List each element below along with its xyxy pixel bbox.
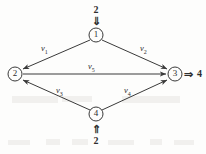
node-1-label: 1 xyxy=(88,30,104,39)
outflow-right-arrow-icon: ⇒ xyxy=(184,69,193,80)
node-3-label: 3 xyxy=(167,69,183,78)
edge-v1 xyxy=(23,40,90,69)
inflow-top-value: 2 xyxy=(89,5,103,15)
outflow-right-value: 4 xyxy=(197,69,202,79)
edge-v2-label-sub: 2 xyxy=(144,49,147,55)
edge-v4-label-sub: 4 xyxy=(128,91,131,97)
inflow-bottom-arrow-icon: ⇑ xyxy=(89,124,103,135)
edge-v4 xyxy=(102,80,167,110)
node-2-label: 2 xyxy=(7,69,23,78)
edge-v3-label-sub: 3 xyxy=(60,91,63,97)
edge-v1-label: v1 xyxy=(41,44,48,55)
edge-v2-label: v2 xyxy=(140,44,147,55)
inflow-bottom-value: 2 xyxy=(89,136,103,146)
edge-v4-label: v4 xyxy=(124,86,131,97)
network-figure: 1 2 3 4 v1 v2 v3 v4 v5 2 ⇓ ⇑ 2 ⇒ 4 xyxy=(0,0,206,154)
edge-v5-label: v5 xyxy=(88,62,95,73)
edge-v5-label-sub: 5 xyxy=(92,67,95,73)
edge-v3-label: v3 xyxy=(56,86,63,97)
edge-v1-label-sub: 1 xyxy=(45,49,48,55)
edge-v2 xyxy=(102,40,167,69)
inflow-top-arrow-icon: ⇓ xyxy=(89,16,103,27)
node-4-label: 4 xyxy=(88,109,104,118)
